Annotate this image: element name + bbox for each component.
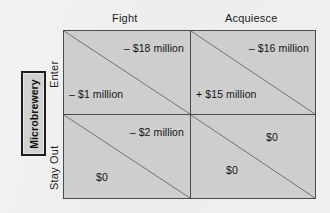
payoff-upper-right: – $16 million [249, 42, 309, 54]
payoff-matrix-figure: Fight Acquiesce Enter Stay Out Microbrew… [0, 0, 330, 213]
row-header-stay-out: Stay Out [48, 146, 60, 190]
payoff-lower-left: $0 [96, 171, 108, 183]
payoff-lower-left: + $15 million [196, 88, 257, 100]
row-player-label-box: Microbrewery [21, 71, 46, 156]
column-header-fight: Fight [112, 12, 137, 24]
column-header-acquiesce: Acquiesce [225, 12, 278, 24]
cell-enter-fight: – $18 million – $1 million [64, 31, 191, 115]
matrix-grid: – $18 million – $1 million – $16 million… [63, 30, 316, 199]
cell-enter-acquiesce: – $16 million + $15 million [191, 31, 315, 115]
cell-stay-out-acquiesce: $0 $0 [191, 115, 315, 198]
row-header-enter: Enter [48, 61, 60, 88]
payoff-upper-right: – $18 million [124, 42, 184, 54]
row-player-label: Microbrewery [28, 79, 40, 148]
payoff-lower-left: $0 [226, 164, 238, 176]
cell-stay-out-fight: – $2 million $0 [64, 115, 191, 198]
payoff-upper-right: $0 [266, 131, 278, 143]
payoff-lower-left: – $1 million [69, 88, 123, 100]
diagonal-divider-icon [191, 115, 315, 198]
payoff-upper-right: – $2 million [130, 126, 184, 138]
